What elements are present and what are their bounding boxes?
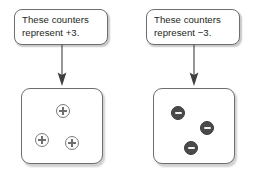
counter-frame-positive bbox=[21, 88, 103, 164]
caption-box-negative: These counters represent −3. bbox=[146, 9, 240, 45]
plus-counter-2 bbox=[35, 133, 49, 147]
counters-diagram: These counters represent +3. bbox=[0, 0, 263, 180]
plus-counter-3 bbox=[65, 136, 79, 150]
minus-icon-bar bbox=[204, 127, 211, 129]
caption-box-positive: These counters represent +3. bbox=[14, 9, 108, 45]
minus-counter-2 bbox=[200, 121, 214, 135]
arrow-down-icon-negative bbox=[180, 45, 208, 87]
minus-icon-bar bbox=[175, 112, 182, 114]
plus-counter-1 bbox=[56, 104, 70, 118]
panel-negative: These counters represent −3. bbox=[132, 0, 263, 180]
minus-counter-1 bbox=[171, 106, 185, 120]
caption-text-positive: These counters represent +3. bbox=[22, 14, 89, 39]
minus-icon-bar bbox=[188, 147, 195, 149]
caption-text-negative: These counters represent −3. bbox=[154, 14, 221, 39]
plus-icon-bar-vertical bbox=[41, 136, 42, 144]
plus-icon-bar-vertical bbox=[62, 107, 63, 115]
arrow-down-icon-positive bbox=[48, 45, 76, 87]
minus-counter-3 bbox=[184, 141, 198, 155]
panel-positive: These counters represent +3. bbox=[0, 0, 131, 180]
counter-frame-negative bbox=[153, 88, 235, 164]
plus-icon-bar-vertical bbox=[71, 139, 72, 147]
